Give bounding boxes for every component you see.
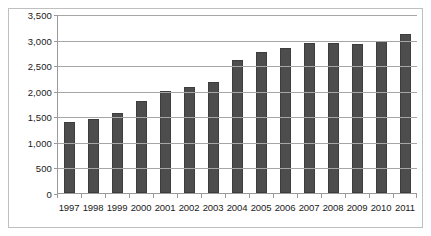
gridline bbox=[58, 15, 417, 16]
gridline bbox=[58, 66, 417, 67]
x-axis-labels: 1997199819992000200120022003200420052006… bbox=[57, 200, 417, 216]
y-axis-tick bbox=[54, 117, 58, 118]
x-axis-tick-label: 2002 bbox=[177, 200, 201, 216]
x-axis-tick bbox=[57, 194, 81, 198]
y-axis-tick-label: 3,000 bbox=[28, 35, 52, 46]
bar-slot bbox=[202, 15, 226, 193]
bar bbox=[208, 82, 219, 193]
x-axis-tick bbox=[393, 194, 417, 198]
bar-series bbox=[58, 15, 417, 193]
x-axis-tick-label: 2008 bbox=[321, 200, 345, 216]
bar bbox=[256, 52, 267, 193]
gridline bbox=[58, 92, 417, 93]
x-axis-tick-label: 2005 bbox=[249, 200, 273, 216]
x-axis-tick bbox=[81, 194, 105, 198]
x-axis-tick bbox=[177, 194, 201, 198]
x-axis-tick bbox=[153, 194, 177, 198]
x-axis-tick-label: 2003 bbox=[201, 200, 225, 216]
gridline bbox=[58, 168, 417, 169]
y-axis-tick-label: 1,500 bbox=[28, 112, 52, 123]
bar-slot bbox=[130, 15, 154, 193]
x-axis-tick bbox=[273, 194, 297, 198]
x-axis-tick-label: 2010 bbox=[369, 200, 393, 216]
bar bbox=[136, 101, 147, 193]
bar-slot bbox=[345, 15, 369, 193]
bar bbox=[64, 122, 75, 193]
x-axis-tick-label: 2000 bbox=[129, 200, 153, 216]
y-axis-tick bbox=[54, 143, 58, 144]
bar bbox=[112, 113, 123, 193]
x-axis-tick bbox=[369, 194, 393, 198]
x-axis-tick-label: 2009 bbox=[345, 200, 369, 216]
y-axis-tick bbox=[54, 41, 58, 42]
x-axis-tick-label: 2007 bbox=[297, 200, 321, 216]
bar-slot bbox=[106, 15, 130, 193]
plot-area bbox=[57, 15, 417, 194]
bar-slot bbox=[250, 15, 274, 193]
y-axis-tick bbox=[54, 168, 58, 169]
x-axis-tick bbox=[225, 194, 249, 198]
chart-frame: 05001,0001,5002,0002,5003,0003,500 19971… bbox=[8, 8, 423, 228]
x-axis-ticks bbox=[57, 194, 417, 198]
bar-slot bbox=[393, 15, 417, 193]
y-axis-tick-label: 2,000 bbox=[28, 86, 52, 97]
x-axis-tick-label: 2011 bbox=[393, 200, 417, 216]
y-axis-tick-label: 1,000 bbox=[28, 137, 52, 148]
y-axis-tick bbox=[54, 66, 58, 67]
bar-slot bbox=[369, 15, 393, 193]
x-axis-tick-label: 2004 bbox=[225, 200, 249, 216]
bar bbox=[280, 48, 291, 193]
bar-slot bbox=[297, 15, 321, 193]
x-axis-tick bbox=[249, 194, 273, 198]
y-axis-tick bbox=[54, 15, 58, 16]
bar-slot bbox=[178, 15, 202, 193]
y-axis-tick-label: 500 bbox=[36, 163, 52, 174]
bar-slot bbox=[154, 15, 178, 193]
y-axis-tick-label: 3,500 bbox=[28, 10, 52, 21]
bar bbox=[88, 119, 99, 193]
x-axis-tick-label: 1998 bbox=[81, 200, 105, 216]
y-axis-labels: 05001,0001,5002,0002,5003,0003,500 bbox=[9, 9, 56, 229]
chart-plot-wrapper: 05001,0001,5002,0002,5003,0003,500 19971… bbox=[9, 9, 424, 229]
x-axis-tick-label: 2001 bbox=[153, 200, 177, 216]
bar-slot bbox=[226, 15, 250, 193]
bar-slot bbox=[82, 15, 106, 193]
x-axis-tick-label: 1997 bbox=[57, 200, 81, 216]
y-axis-tick-label: 2,500 bbox=[28, 61, 52, 72]
x-axis-tick bbox=[321, 194, 345, 198]
x-axis-tick-label: 1999 bbox=[105, 200, 129, 216]
bar-slot bbox=[273, 15, 297, 193]
x-axis-tick-label: 2006 bbox=[273, 200, 297, 216]
gridline bbox=[58, 117, 417, 118]
gridline bbox=[58, 41, 417, 42]
x-axis-tick bbox=[129, 194, 153, 198]
gridline bbox=[58, 143, 417, 144]
y-axis-tick-label: 0 bbox=[47, 189, 52, 200]
bar-slot bbox=[58, 15, 82, 193]
bar bbox=[184, 87, 195, 193]
x-axis-tick bbox=[105, 194, 129, 198]
x-axis-tick bbox=[297, 194, 321, 198]
y-axis-tick bbox=[54, 92, 58, 93]
x-axis-tick bbox=[345, 194, 369, 198]
bar-slot bbox=[321, 15, 345, 193]
bar bbox=[232, 60, 243, 193]
x-axis-tick bbox=[201, 194, 225, 198]
